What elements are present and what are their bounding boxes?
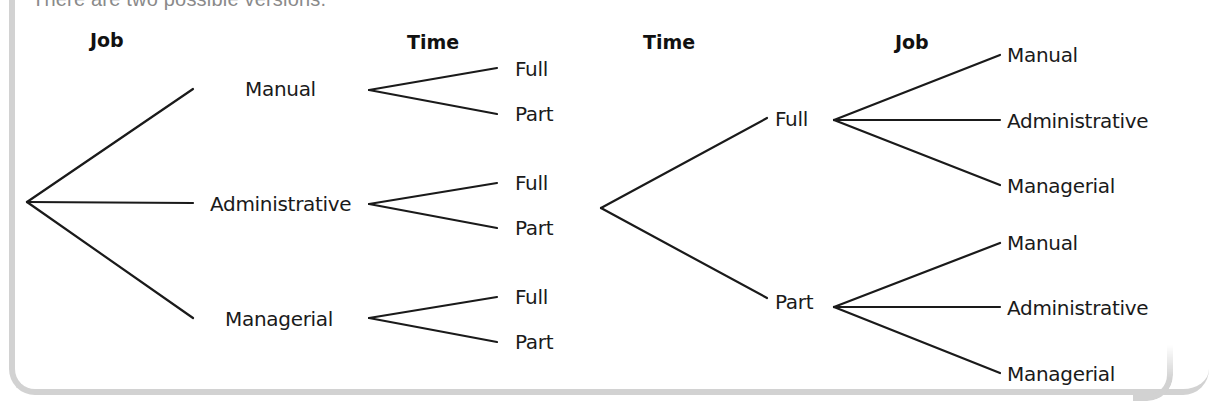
right-leaf-full-manual: Manual: [1007, 45, 1078, 65]
left-node-administrative: Administrative: [210, 194, 351, 214]
left-tree-level2-branches: [369, 68, 497, 342]
left-leaf-administrative-part: Part: [515, 218, 553, 238]
right-tree-level2-branches: [834, 55, 1000, 373]
right-tree-level1-branches: [601, 118, 767, 298]
left-leaf-manual-full: Full: [515, 59, 548, 79]
right-leaf-part-manual: Manual: [1007, 233, 1078, 253]
left-leaf-managerial-full: Full: [515, 287, 548, 307]
left-leaf-administrative-full: Full: [515, 173, 548, 193]
right-header-job: Job: [895, 33, 929, 52]
right-leaf-part-managerial: Managerial: [1007, 364, 1115, 384]
right-node-part: Part: [775, 292, 813, 312]
right-leaf-part-administrative: Administrative: [1007, 298, 1148, 318]
left-node-manual: Manual: [245, 79, 316, 99]
right-node-full: Full: [775, 109, 808, 129]
left-header-job: Job: [90, 31, 124, 50]
left-node-managerial: Managerial: [225, 309, 333, 329]
left-leaf-manual-part: Part: [515, 104, 553, 124]
right-leaf-full-administrative: Administrative: [1007, 111, 1148, 131]
left-header-time: Time: [407, 33, 459, 52]
left-leaf-managerial-part: Part: [515, 332, 553, 352]
right-leaf-full-managerial: Managerial: [1007, 176, 1115, 196]
left-tree-level1-branches: [27, 89, 193, 318]
right-header-time: Time: [643, 33, 695, 52]
